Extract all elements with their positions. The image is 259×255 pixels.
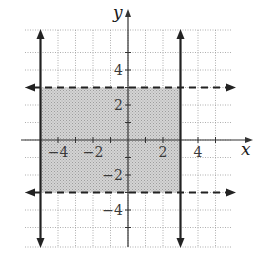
x-tick-label: 2 [159,144,168,160]
arrow-down-icon [37,238,45,248]
arrow-right-icon [226,189,236,197]
arrow-down-icon [177,238,185,248]
coordinate-plane: −4−22442−2−4 x y [0,0,259,255]
x-axis-label: x [241,139,251,159]
arrow-left-icon [25,189,35,197]
y-axis-arrow-icon [125,9,131,17]
arrow-up-icon [177,29,185,39]
y-tick-label: 4 [114,62,123,78]
y-tick-label: −2 [102,167,123,183]
arrow-right-icon [226,84,236,92]
y-tick-label: −4 [102,202,123,218]
arrow-left-icon [25,84,35,92]
x-tick-label: −2 [83,144,104,160]
x-tick-label: −4 [48,144,69,160]
x-tick-label: 4 [194,144,203,160]
y-tick-label: 2 [114,97,123,113]
arrow-up-icon [37,29,45,39]
y-axis-label: y [112,2,123,22]
